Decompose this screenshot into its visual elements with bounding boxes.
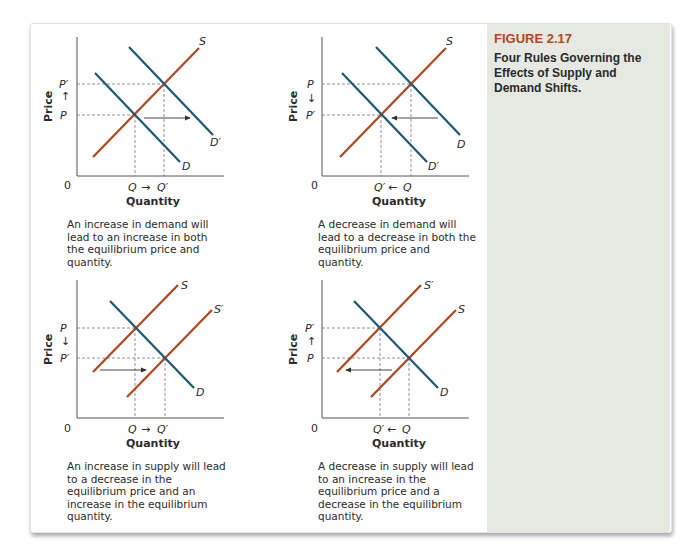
curve-label-s: S [458,303,465,316]
caption-increase-supply: An increase in supply will lead to a dec… [67,460,227,523]
x-axis-label: Quantity [126,437,180,450]
qty-arrow: ← [387,423,396,436]
qty-left-label: Q [128,181,137,194]
caption-decrease-demand: A decrease in demand will lead to a decr… [318,218,478,268]
curve-label-d: D [182,160,190,173]
curve-label-s: S [446,35,453,48]
demand-curve-d [354,301,438,388]
price-upper-label: P′ [305,322,315,335]
y-axis-label: Price [42,91,55,122]
origin-label: 0 [64,422,71,435]
price-lower-label: P′ [60,352,70,365]
curve-label-s-prime: S′ [424,279,434,292]
caption-decrease-supply: A decrease in supply will lead to an inc… [318,460,478,523]
curve-label-d-prime: D′ [428,160,439,173]
qty-arrow: → [141,181,150,194]
qty-right-label: Q′ [157,423,169,436]
curve-label-s: S [199,35,206,48]
panel-decrease-supply: S′ S D P′ ↑ P Price 0 Q′ ← Q Quantity [287,279,469,450]
qty-arrow: → [141,423,150,436]
price-upper-label: P [60,322,67,335]
curve-label-s: S [181,279,188,292]
origin-label: 0 [311,179,318,192]
price-upper-label: P [307,78,314,91]
qty-arrow: ← [388,181,397,194]
axes [322,37,469,176]
origin-label: 0 [64,179,71,192]
demand-curve-d [110,301,194,388]
panel-increase-supply: S S′ D P ↓ P′ Price 0 Q → Q′ Quantity [42,279,224,450]
y-axis-label: Price [287,91,300,122]
curve-label-s-prime: S′ [214,303,224,316]
caption-increase-demand: An increase in demand will lead to an in… [67,218,227,268]
y-axis-label: Price [287,334,300,365]
x-axis-label: Quantity [126,195,180,208]
x-axis-label: Quantity [372,195,426,208]
y-axis-label: Price [42,334,55,365]
curve-label-d-prime: D′ [210,136,221,149]
x-axis-label: Quantity [372,437,426,450]
qty-left-label: Q [128,423,137,436]
panel-increase-demand: S D D′ P′ ↑ P Price 0 Q → Q′ Quantity [42,35,224,208]
qty-right-label: Q [403,181,412,194]
price-arrow: ↓ [307,92,316,105]
qty-left-label: Q′ [373,423,385,436]
price-lower-label: P [60,109,67,122]
price-lower-label: P′ [306,109,316,122]
panel-decrease-demand: S D D′ P ↓ P′ Price 0 Q′ ← Q Quantity [287,35,469,208]
axes [77,37,224,176]
price-arrow: ↑ [307,335,316,348]
price-arrow: ↓ [61,335,70,348]
curve-label-d: D [457,138,465,151]
curve-label-d: D [440,386,448,399]
qty-left-label: Q′ [374,181,386,194]
curve-label-d: D [196,386,204,399]
qty-right-label: Q [402,423,411,436]
origin-label: 0 [311,422,318,435]
qty-right-label: Q′ [157,181,169,194]
price-arrow: ↑ [61,90,70,103]
price-lower-label: P [307,352,314,365]
